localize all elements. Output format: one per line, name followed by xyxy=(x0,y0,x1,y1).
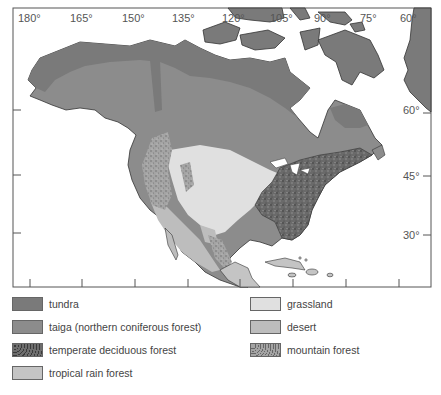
lon-label: 135° xyxy=(172,12,195,24)
lon-label: 60° xyxy=(400,12,417,24)
island xyxy=(327,273,333,277)
legend-item-tundra: tundra xyxy=(12,296,79,312)
lon-label: 180° xyxy=(18,12,41,24)
lat-label: 60° xyxy=(403,104,420,116)
mountain-forest-swatch xyxy=(250,343,281,357)
legend-label: grassland xyxy=(287,298,333,310)
lat-label: 45° xyxy=(403,170,420,182)
legend-item-grassland: grassland xyxy=(250,296,333,312)
lon-label: 120° xyxy=(222,12,245,24)
legend-label: mountain forest xyxy=(287,344,359,356)
legend-label: taiga (northern coniferous forest) xyxy=(49,321,201,333)
legend-item-temperate-deciduous-forest: temperate deciduous forest xyxy=(12,342,176,358)
legend-label: tropical rain forest xyxy=(49,367,132,379)
lon-label: 75° xyxy=(360,12,377,24)
biome-map: 180° 165° 150° 135° 120° 105° 90° 75° 60… xyxy=(0,0,441,295)
legend: tundra taiga (northern coniferous forest… xyxy=(0,296,441,395)
lon-label: 165° xyxy=(70,12,93,24)
island xyxy=(306,269,318,275)
legend-item-mountain-forest: mountain forest xyxy=(250,342,359,358)
temperate-forest-swatch xyxy=(12,343,43,357)
island xyxy=(288,273,296,277)
legend-item-tropical-rain-forest: tropical rain forest xyxy=(12,365,132,381)
legend-label: desert xyxy=(287,321,316,333)
grassland-swatch xyxy=(250,297,281,311)
tundra-swatch xyxy=(12,297,43,311)
legend-item-taiga: taiga (northern coniferous forest) xyxy=(12,319,201,335)
lon-label: 105° xyxy=(270,12,293,24)
legend-label: temperate deciduous forest xyxy=(49,344,176,356)
lat-label: 30° xyxy=(403,229,420,241)
legend-label: tundra xyxy=(49,298,79,310)
taiga-swatch xyxy=(12,320,43,334)
legend-item-desert: desert xyxy=(250,319,316,335)
lon-label: 150° xyxy=(122,12,145,24)
lon-label: 90° xyxy=(314,12,331,24)
tropical-forest-swatch xyxy=(12,366,43,380)
desert-swatch xyxy=(250,320,281,334)
